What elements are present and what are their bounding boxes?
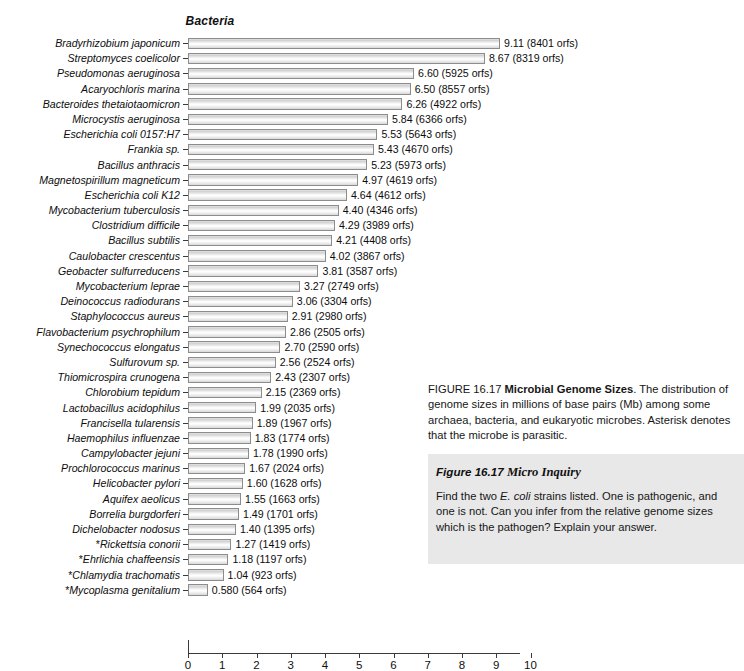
bar-category-label: Borrelia burgdorferi xyxy=(0,507,184,522)
bar-category-label: Aquifex aeolicus xyxy=(0,492,184,507)
bar-track: 1.27 (1419 orfs) xyxy=(188,537,351,552)
bar-row: Escherichia coli 0157:H75.53 (5643 orfs) xyxy=(0,127,744,142)
figure-caption: FIGURE 16.17 Microbial Genome Sizes. The… xyxy=(428,382,740,444)
bar-row: Mycobacterium leprae3.27 (2749 orfs) xyxy=(0,279,744,294)
bar-category-label: Thiomicrospira crunogena xyxy=(0,370,184,385)
bar-track: 2.15 (2369 orfs) xyxy=(188,385,382,400)
bar xyxy=(188,524,236,535)
bar-category-label: Helicobacter pylori xyxy=(0,476,184,491)
bar-value-label: 1.18 (1197 orfs) xyxy=(228,552,306,567)
bar-value-label: 5.53 (5643 orfs) xyxy=(377,127,456,142)
parasite-asterisk: * xyxy=(68,569,72,581)
bar xyxy=(188,554,228,565)
bar xyxy=(188,463,245,474)
bar xyxy=(188,235,332,246)
bar xyxy=(188,357,276,368)
bar-track: 2.70 (2590 orfs) xyxy=(188,340,400,355)
bar xyxy=(188,432,251,443)
micro-inquiry-heading: Figure 16.17 Micro Inquiry xyxy=(436,465,730,480)
bar-row: Bacillus anthracis5.23 (5973 orfs) xyxy=(0,158,744,173)
bar-value-label: 1.49 (1701 orfs) xyxy=(239,507,318,522)
x-axis-tick xyxy=(325,653,326,658)
bar-track: 9.11 (8401 orfs) xyxy=(188,36,620,51)
x-axis-tick xyxy=(257,653,258,658)
bar-track: 1.60 (1628 orfs) xyxy=(188,476,363,491)
bar-row: Escherichia coli K124.64 (4612 orfs) xyxy=(0,188,744,203)
bar-track: 1.89 (1967 orfs) xyxy=(188,416,373,431)
bar-category-label: Bacteroides thetaiotaomicron xyxy=(0,97,184,112)
bar-value-label: 6.50 (8557 orfs) xyxy=(411,82,490,97)
bar-value-label: 1.78 (1990 orfs) xyxy=(249,446,328,461)
bar xyxy=(188,129,377,140)
bar-category-label: Chlorobium tepidum xyxy=(0,385,184,400)
bar-value-label: 5.43 (4670 orfs) xyxy=(374,142,453,157)
bar-row: Bacillus subtilis4.21 (4408 orfs) xyxy=(0,233,744,248)
parasite-asterisk: * xyxy=(79,553,83,565)
bar-track: 3.27 (2749 orfs) xyxy=(188,279,420,294)
x-axis-tick-label: 0 xyxy=(173,659,203,671)
bar-category-label: *Chlamydia trachomatis xyxy=(0,568,184,583)
bar-track: 1.40 (1395 orfs) xyxy=(188,522,356,537)
bar-row: Frankia sp.5.43 (4670 orfs) xyxy=(0,142,744,157)
bar xyxy=(188,281,300,292)
bar-category-label: Frankia sp. xyxy=(0,142,184,157)
x-axis-tick-label: 4 xyxy=(310,659,340,671)
bar-value-label: 4.64 (4612 orfs) xyxy=(347,188,426,203)
bar-track: 1.18 (1197 orfs) xyxy=(188,552,348,567)
parasite-asterisk: * xyxy=(96,538,100,550)
bar-track: 2.86 (2505 orfs) xyxy=(188,325,406,340)
bar-track: 1.83 (1774 orfs) xyxy=(188,431,371,446)
bar-row: Pseudomonas aeruginosa6.60 (5925 orfs) xyxy=(0,66,744,81)
bar-category-label: Bacillus anthracis xyxy=(0,158,184,173)
chart-group-title: Bacteria xyxy=(150,14,270,28)
bar xyxy=(188,68,414,79)
bar-category-label: Staphylococcus aureus xyxy=(0,309,184,324)
bar-value-label: 1.55 (1663 orfs) xyxy=(241,492,320,507)
bar-row: *Chlamydia trachomatis1.04 (923 orfs) xyxy=(0,568,744,583)
bar-value-label: 1.99 (2035 orfs) xyxy=(256,401,335,416)
bar xyxy=(188,508,239,519)
bar-track: 3.06 (3304 orfs) xyxy=(188,294,413,309)
bar-row: Bacteroides thetaiotaomicron6.26 (4922 o… xyxy=(0,97,744,112)
x-axis-tick-label: 8 xyxy=(447,659,477,671)
bar xyxy=(188,205,339,216)
bar-value-label: 4.40 (4346 orfs) xyxy=(339,203,418,218)
bar-row: *Mycoplasma genitalium0.580 (564 orfs) xyxy=(0,583,744,598)
x-axis-tick xyxy=(531,653,532,658)
micro-inquiry-figure-ref: Figure 16.17 xyxy=(436,465,504,478)
bar-track: 4.64 (4612 orfs) xyxy=(188,188,467,203)
bar-value-label: 3.27 (2749 orfs) xyxy=(300,279,379,294)
bar-value-label: 1.89 (1967 orfs) xyxy=(253,416,332,431)
bar-value-label: 2.43 (2307 orfs) xyxy=(271,370,350,385)
bar xyxy=(188,174,358,185)
bar-value-label: 0.580 (564 orfs) xyxy=(208,583,287,598)
bar-row: Clostridium difficile4.29 (3989 orfs) xyxy=(0,218,744,233)
parasite-asterisk: * xyxy=(65,584,69,596)
bar xyxy=(188,372,271,383)
x-axis-tick-label: 3 xyxy=(276,659,306,671)
bar-category-label: *Ehrlichia chaffeensis xyxy=(0,552,184,567)
bar xyxy=(188,144,374,155)
bar-value-label: 3.06 (3304 orfs) xyxy=(293,294,372,309)
bar-track: 1.04 (923 orfs) xyxy=(188,568,344,583)
bar-category-label: Magnetospirillum magneticum xyxy=(0,173,184,188)
bar-category-label: Francisella tularensis xyxy=(0,416,184,431)
bar-category-label: Deinococcus radiodurans xyxy=(0,294,184,309)
bar-row: Mycobacterium tuberculosis4.40 (4346 orf… xyxy=(0,203,744,218)
bar-value-label: 2.70 (2590 orfs) xyxy=(280,340,359,355)
bar-category-label: Campylobacter jejuni xyxy=(0,446,184,461)
x-axis-tick xyxy=(496,653,497,658)
bar-track: 6.50 (8557 orfs) xyxy=(188,82,531,97)
bar-track: 5.23 (5973 orfs) xyxy=(188,158,487,173)
bar-track: 1.49 (1701 orfs) xyxy=(188,507,359,522)
bar-row: Staphylococcus aureus2.91 (2980 orfs) xyxy=(0,309,744,324)
x-axis-tick xyxy=(291,653,292,658)
bar-category-label: *Mycoplasma genitalium xyxy=(0,583,184,598)
bar xyxy=(188,38,500,49)
bar-track: 2.91 (2980 orfs) xyxy=(188,309,408,324)
bar-category-label: Mycobacterium tuberculosis xyxy=(0,203,184,218)
micro-inquiry-text: Find the two E. coli strains listed. One… xyxy=(436,489,730,535)
bar xyxy=(188,341,280,352)
bar-category-label: Sulfurovum sp. xyxy=(0,355,184,370)
